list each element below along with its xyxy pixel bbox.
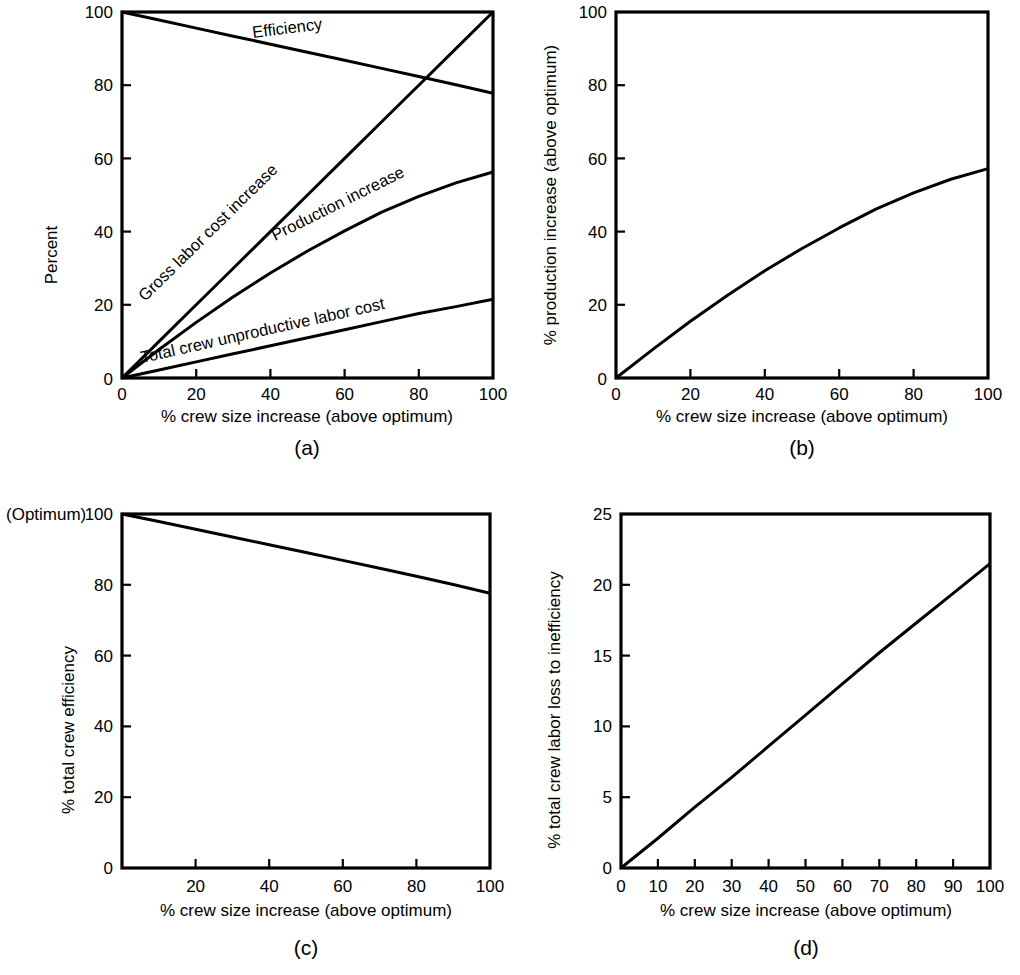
panel-c: (Optimum) 100 80 60 40 20 0 20 40 60 80 …	[0, 480, 520, 975]
x-tick-label: 10	[648, 877, 667, 896]
y-tick-label: 0	[104, 370, 113, 389]
x-tick-label: 20	[186, 877, 205, 896]
curve-label-efficiency: Efficiency	[251, 14, 324, 41]
y-tick-label: 40	[588, 223, 607, 242]
x-axis-title-c: % crew size increase (above optimum)	[160, 901, 452, 920]
y-tick-label: 60	[94, 150, 113, 169]
panel-a: 100 80 60 40 20 0 0 20 40 60 80 100 Perc…	[0, 0, 520, 460]
x-tick-label: 0	[616, 877, 625, 896]
x-axis-title-a: % crew size increase (above optimum)	[161, 407, 453, 426]
plot-frame-c	[122, 514, 490, 868]
x-tick-label: 80	[407, 877, 426, 896]
x-tick-label: 100	[976, 877, 1004, 896]
x-tick-label: 60	[830, 385, 849, 404]
y-tick-label: 80	[588, 76, 607, 95]
plot-frame-b	[616, 12, 988, 378]
x-tick-label: 40	[759, 877, 778, 896]
y-tick-label: 40	[94, 223, 113, 242]
panel-caption-a: (a)	[294, 436, 320, 459]
panel-caption-b: (b)	[789, 436, 815, 459]
y-tick-label: 100	[85, 3, 113, 22]
x-tick-label: 40	[260, 877, 279, 896]
y-tick-label: 100	[85, 505, 113, 524]
x-tick-label: 40	[755, 385, 774, 404]
y-tick-label: 0	[603, 859, 612, 878]
x-tick-label: 80	[409, 385, 428, 404]
curve-label-production-increase: Production increase	[268, 163, 407, 244]
figure-container: 100 80 60 40 20 0 0 20 40 60 80 100 Perc…	[0, 0, 1020, 975]
panel-caption-d: (d)	[793, 936, 819, 959]
curve-total-crew-efficiency	[122, 514, 490, 593]
y-tick-label: 80	[94, 576, 113, 595]
y-tick-label: 15	[593, 647, 612, 666]
curve-total-crew-labor-loss	[621, 564, 990, 868]
x-tick-label: 30	[722, 877, 741, 896]
optimum-annotation-c: (Optimum)	[6, 505, 86, 524]
y-tick-label: 20	[593, 576, 612, 595]
x-tick-label: 60	[833, 877, 852, 896]
y-axis-title-a: Percent	[42, 225, 61, 284]
x-tick-label: 0	[611, 385, 620, 404]
y-axis-title-b: % production increase (above optimum)	[541, 45, 560, 345]
y-tick-label: 25	[593, 505, 612, 524]
curve-label-gross-labor-cost-increase: Gross labor cost increase	[134, 160, 280, 304]
x-tick-label: 100	[974, 385, 1002, 404]
y-tick-label: 20	[588, 296, 607, 315]
y-tick-label: 20	[94, 788, 113, 807]
x-tick-label: 40	[261, 385, 280, 404]
y-axis-title-c: % total crew efficiency	[59, 646, 78, 814]
x-tick-label: 20	[685, 877, 704, 896]
x-tick-label: 70	[870, 877, 889, 896]
y-tick-label: 40	[94, 717, 113, 736]
panel-d: 25 20 15 10 5 0 0 10 20 30 40 50 60 70 8…	[500, 480, 1020, 975]
x-tick-label: 20	[681, 385, 700, 404]
x-tick-label: 0	[117, 385, 126, 404]
x-tick-label: 90	[944, 877, 963, 896]
y-tick-label: 0	[104, 859, 113, 878]
x-tick-label: 80	[904, 385, 923, 404]
x-tick-label: 60	[335, 385, 354, 404]
curve-production-increase-b	[616, 169, 988, 378]
y-tick-label: 10	[593, 717, 612, 736]
y-tick-label: 60	[588, 150, 607, 169]
x-tick-label: 60	[333, 877, 352, 896]
x-tick-label: 20	[187, 385, 206, 404]
y-tick-label: 20	[94, 296, 113, 315]
y-tick-label: 100	[579, 3, 607, 22]
plot-frame-d	[621, 514, 990, 868]
x-axis-title-d: % crew size increase (above optimum)	[660, 901, 952, 920]
y-tick-label: 80	[94, 76, 113, 95]
y-axis-title-d: % total crew labor loss to inefficiency	[545, 571, 564, 849]
y-tick-label: 0	[598, 370, 607, 389]
y-tick-label: 5	[603, 788, 612, 807]
x-tick-label: 50	[796, 877, 815, 896]
y-tick-label: 60	[94, 647, 113, 666]
panel-b: 100 80 60 40 20 0 0 20 40 60 80 100 % pr…	[500, 0, 1020, 460]
x-axis-title-b: % crew size increase (above optimum)	[656, 407, 948, 426]
panel-caption-c: (c)	[294, 936, 319, 959]
x-tick-label: 80	[907, 877, 926, 896]
